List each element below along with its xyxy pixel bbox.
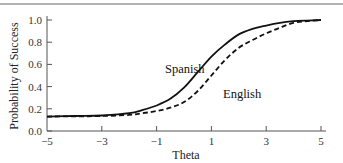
y-axis-title: Probability of Success <box>7 22 21 130</box>
x-tick-label: 5 <box>318 135 324 147</box>
y-tick-label: 0.2 <box>28 103 42 115</box>
label-spanish: Spanish <box>165 62 205 76</box>
x-tick-label: −1 <box>151 135 163 147</box>
y-tick-label: 0.6 <box>28 58 42 70</box>
x-tick-label: 3 <box>263 135 269 147</box>
irt-curve-chart: 0.00.20.40.60.81.0−5−3−1135 Spanish Engl… <box>0 0 343 163</box>
axes: 0.00.20.40.60.81.0−5−3−1135 <box>28 14 326 147</box>
x-tick-label: −3 <box>96 135 108 147</box>
label-english: English <box>223 87 262 101</box>
x-tick-label: 1 <box>209 135 215 147</box>
y-tick-label: 0.8 <box>28 36 42 48</box>
x-axis-title: Theta <box>172 148 200 162</box>
x-tick-label: −5 <box>41 135 53 147</box>
y-tick-label: 0.4 <box>28 81 42 93</box>
y-tick-label: 1.0 <box>28 14 42 26</box>
